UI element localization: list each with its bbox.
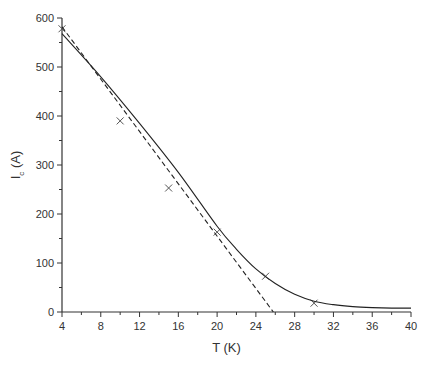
y-tick-label: 200 (36, 208, 54, 220)
y-tick-label: 600 (36, 12, 54, 24)
y-axis-label: Ic (A) (8, 151, 26, 180)
x-tick-label: 16 (172, 320, 184, 332)
x-tick-label: 12 (133, 320, 145, 332)
x-tick-label: 24 (250, 320, 262, 332)
plot-area: 4812162024283236400100200300400500600T (… (8, 12, 417, 355)
fit-curve-line (62, 34, 411, 308)
linear-fit-line (62, 27, 273, 312)
x-tick-label: 8 (98, 320, 104, 332)
y-tick-label: 0 (48, 306, 54, 318)
y-tick-label: 400 (36, 110, 54, 122)
data-point-marker (165, 185, 172, 192)
x-tick-label: 32 (327, 320, 339, 332)
x-tick-label: 4 (59, 320, 65, 332)
chart: 4812162024283236400100200300400500600T (… (0, 0, 430, 367)
y-tick-label: 500 (36, 61, 54, 73)
y-tick-label: 300 (36, 159, 54, 171)
y-tick-label: 100 (36, 257, 54, 269)
x-axis-label: T (K) (212, 340, 241, 355)
x-tick-label: 40 (405, 320, 417, 332)
x-tick-label: 20 (211, 320, 223, 332)
x-tick-label: 28 (289, 320, 301, 332)
data-point-marker (117, 117, 124, 124)
x-tick-label: 36 (366, 320, 378, 332)
